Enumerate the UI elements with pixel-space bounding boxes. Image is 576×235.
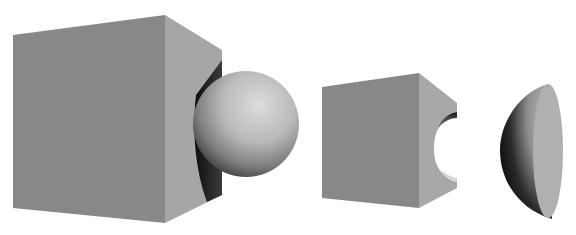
cavity-cube-front-face: [322, 73, 419, 208]
cube-with-cavity: [322, 73, 457, 208]
spherical-cap: [500, 84, 563, 219]
cube-with-sphere: [13, 15, 299, 223]
cube-front-face: [13, 15, 165, 223]
shapes-illustration: [0, 0, 576, 235]
cavity-cube-side-face: [419, 73, 457, 208]
cap-flat-face: [533, 84, 563, 218]
figure-stage: [0, 0, 576, 235]
sphere: [193, 71, 299, 177]
